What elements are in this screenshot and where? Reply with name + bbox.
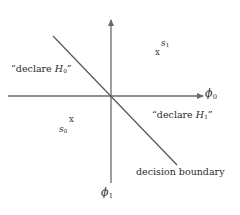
region-label-declare-h1: “declare H1” bbox=[152, 110, 213, 120]
sample-mark-s0: x bbox=[69, 115, 74, 124]
signal-label-s1-symbol: s bbox=[161, 38, 166, 48]
axis-label-phi1-symbol: ϕ bbox=[101, 186, 109, 199]
signal-space-decision-diagram: ϕ0 ϕ1 “declare H0” “declare H1” s1 x s0 … bbox=[0, 0, 240, 215]
region-label-declare-h0: “declare H0” bbox=[11, 64, 72, 74]
signal-label-s0-symbol: s bbox=[59, 124, 64, 134]
sample-mark-s1: x bbox=[155, 48, 160, 57]
decision-boundary-caption: decision boundary bbox=[136, 167, 225, 177]
diagram-canvas bbox=[0, 0, 240, 215]
axis-label-phi0: ϕ0 bbox=[205, 88, 217, 99]
declare-h1-subscript: 1 bbox=[204, 114, 208, 120]
signal-label-s1: s1 bbox=[161, 39, 169, 48]
axis-label-phi0-subscript: 0 bbox=[213, 93, 217, 101]
declare-h0-prefix: “declare bbox=[11, 63, 55, 74]
declare-h0-subscript: 0 bbox=[63, 68, 67, 74]
declare-h0-suffix: ” bbox=[67, 63, 72, 74]
declare-h1-symbol: H bbox=[196, 109, 204, 120]
signal-label-s0-subscript: 0 bbox=[64, 128, 68, 134]
signal-label-s0: s0 bbox=[59, 125, 67, 134]
signal-label-s1-subscript: 1 bbox=[166, 42, 170, 48]
declare-h1-suffix: ” bbox=[208, 109, 213, 120]
axis-label-phi1: ϕ1 bbox=[101, 187, 113, 198]
axis-label-phi0-symbol: ϕ bbox=[205, 87, 213, 100]
axis-label-phi1-subscript: 1 bbox=[109, 192, 113, 200]
declare-h1-prefix: “declare bbox=[152, 109, 196, 120]
declare-h0-symbol: H bbox=[55, 63, 63, 74]
